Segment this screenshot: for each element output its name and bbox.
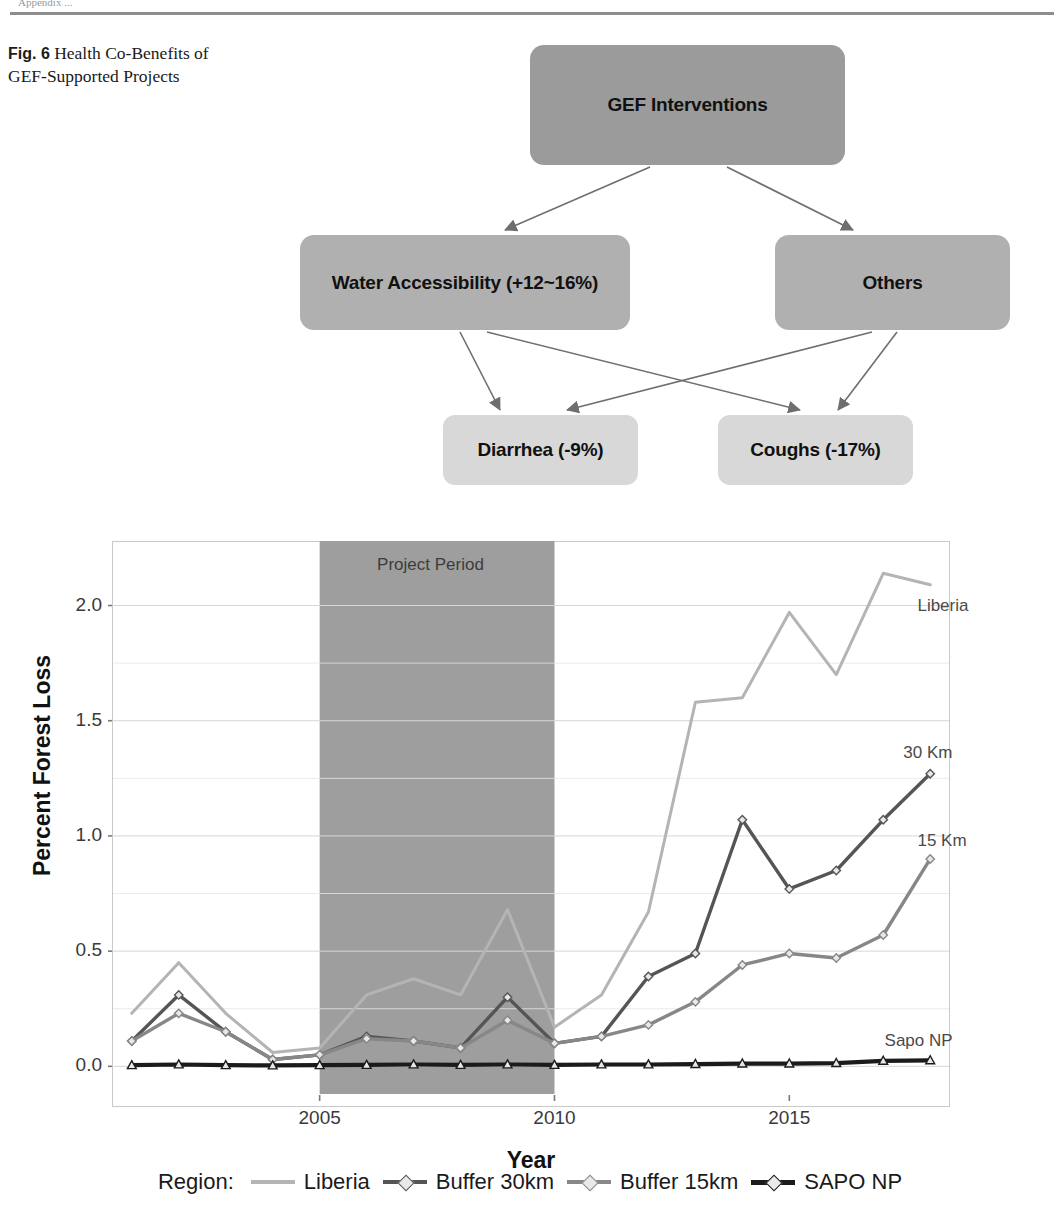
chart-legend: Region: LiberiaBuffer 30kmBuffer 15kmSAP…	[0, 1160, 1060, 1204]
y-tick-label: 0.5	[36, 939, 102, 961]
project-period-label: Project Period	[377, 555, 484, 575]
forest-loss-chart: Percent Forest Loss Year 0.00.51.01.52.0…	[0, 512, 1060, 1217]
legend-item-3[interactable]: SAPO NP	[751, 1169, 902, 1195]
header-rule	[10, 12, 1054, 15]
legend-swatch-icon	[251, 1174, 295, 1190]
diagram-node-others[interactable]: Others	[775, 235, 1010, 330]
diagram-node-water-accessibility[interactable]: Water Accessibility (+12~16%)	[300, 235, 630, 330]
legend-label: Liberia	[304, 1169, 370, 1195]
y-axis-label: Percent Forest Loss	[29, 616, 56, 916]
legend-item-1[interactable]: Buffer 30km	[383, 1169, 554, 1195]
edge-water-to-diarrhea	[460, 332, 500, 410]
running-header: Appendix ...	[18, 0, 1018, 10]
edge-others-to-diarrhea	[567, 332, 872, 410]
y-tick-label: 1.0	[36, 824, 102, 846]
legend-item-0[interactable]: Liberia	[251, 1169, 370, 1195]
legend-item-2[interactable]: Buffer 15km	[567, 1169, 738, 1195]
diagram-node-gef-interventions[interactable]: GEF Interventions	[530, 45, 845, 165]
series-label-sapo-np: Sapo NP	[885, 1031, 953, 1051]
series-label-liberia: Liberia	[917, 596, 968, 616]
edge-gef-to-water	[505, 167, 650, 230]
legend-label: Buffer 15km	[620, 1169, 738, 1195]
legend-swatch-icon	[751, 1174, 795, 1190]
series-label-buffer-15km: 15 Km	[917, 831, 966, 851]
legend-label: SAPO NP	[804, 1169, 902, 1195]
x-tick-label: 2015	[749, 1107, 829, 1129]
legend-swatch-icon	[567, 1174, 611, 1190]
y-tick-label: 0.0	[36, 1054, 102, 1076]
legend-swatch-icon	[383, 1174, 427, 1190]
x-tick-label: 2010	[514, 1107, 594, 1129]
y-tick-label: 2.0	[36, 594, 102, 616]
series-label-buffer-30km: 30 Km	[903, 743, 952, 763]
flow-diagram: GEF Interventions Water Accessibility (+…	[0, 30, 1060, 500]
diagram-node-diarrhea[interactable]: Diarrhea (-9%)	[443, 415, 638, 485]
diagram-node-coughs[interactable]: Coughs (-17%)	[718, 415, 913, 485]
edge-gef-to-others	[727, 167, 853, 230]
legend-title: Region:	[158, 1169, 234, 1195]
figure-page: Appendix ... Fig. 6 Health Co-Benefits o…	[0, 0, 1060, 1217]
legend-label: Buffer 30km	[436, 1169, 554, 1195]
edge-others-to-coughs	[838, 332, 897, 410]
edge-water-to-coughs	[487, 332, 800, 410]
x-tick-label: 2005	[280, 1107, 360, 1129]
y-tick-label: 1.5	[36, 709, 102, 731]
series-marker	[785, 949, 793, 957]
